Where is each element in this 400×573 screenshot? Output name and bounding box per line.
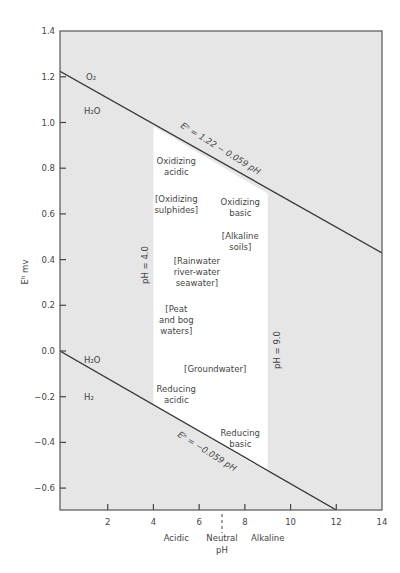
y-tick-label: 1.2 xyxy=(41,72,55,82)
x-tick-label: 8 xyxy=(242,517,247,527)
region-label-line: Reducing xyxy=(221,428,260,438)
region-label-line: basic xyxy=(229,208,251,218)
region-label-line: [Rainwater xyxy=(174,256,221,266)
region-label-line: river-water xyxy=(174,267,221,277)
region-label-line: waters] xyxy=(160,326,192,336)
region-label-line: soils] xyxy=(229,242,251,252)
ph9-label: pH = 9.0 xyxy=(272,331,282,369)
x-tick-label: 6 xyxy=(196,517,201,527)
y-tick-label: 1.0 xyxy=(41,118,55,128)
eh-ph-diagram: 1.41.21.00.80.60.40.20.0−0.2−0.4−0.6 246… xyxy=(0,0,400,573)
region-label-line: seawater] xyxy=(176,278,218,288)
region-label-line: [Alkaline xyxy=(222,231,259,241)
h2o-lower-label: H₂O xyxy=(84,355,101,365)
o2-label: O₂ xyxy=(86,72,96,82)
x-tick-label: 14 xyxy=(377,517,388,527)
h2o-upper-label: H₂O xyxy=(84,106,101,116)
region-label-line: [Oxidizing xyxy=(155,194,198,204)
region-label: [Groundwater] xyxy=(184,364,246,374)
region-label-line: Reducing xyxy=(157,384,196,394)
x-category-label: NeutralpH xyxy=(206,533,237,555)
x-category-labels: AcidicNeutralpHAlkaline xyxy=(164,533,285,555)
region-label-line: sulphides] xyxy=(154,205,198,215)
y-tick-label: −0.4 xyxy=(34,437,55,447)
region-label-line: acidic xyxy=(164,167,189,177)
x-tick-label: 10 xyxy=(285,517,296,527)
y-tick-label: 0.2 xyxy=(41,300,55,310)
region-label-line: acidic xyxy=(164,395,189,405)
region-label-line: [Peat xyxy=(165,304,188,314)
y-axis-title: Eʰ mv xyxy=(20,260,30,285)
y-tick-label: 0.8 xyxy=(41,163,55,173)
x-tick-label: 2 xyxy=(105,517,110,527)
region-label: [Rainwaterriver-waterseawater] xyxy=(174,256,221,288)
x-category-label-line: Neutral xyxy=(206,533,237,543)
region-label-line: Oxidizing xyxy=(221,197,260,207)
y-tick-label: 0.6 xyxy=(41,209,55,219)
y-tick-label: −0.6 xyxy=(34,483,55,493)
x-category-label: Acidic xyxy=(164,533,189,543)
y-tick-label: 1.4 xyxy=(41,26,55,36)
x-tick-label: 4 xyxy=(151,517,156,527)
x-category-label-line: pH xyxy=(216,545,228,555)
y-tick-label: 0.4 xyxy=(41,255,55,265)
y-tick-label: −0.2 xyxy=(34,392,55,402)
region-label-line: [Groundwater] xyxy=(184,364,246,374)
x-category-label: Alkaline xyxy=(251,533,285,543)
x-category-label-line: Acidic xyxy=(164,533,189,543)
region-label-line: basic xyxy=(229,439,251,449)
y-axis-label: Eʰ mv xyxy=(20,260,30,285)
y-tick-label: 0.0 xyxy=(41,346,55,356)
ph4-label: pH = 4.0 xyxy=(140,246,150,284)
region-label-line: and bog xyxy=(159,315,194,325)
region-label: [Oxidizingsulphides] xyxy=(154,194,198,215)
x-tick-label: 12 xyxy=(331,517,342,527)
x-category-label-line: Alkaline xyxy=(251,533,285,543)
h2-label: H₂ xyxy=(84,392,94,402)
region-label-line: Oxidizing xyxy=(157,156,196,166)
